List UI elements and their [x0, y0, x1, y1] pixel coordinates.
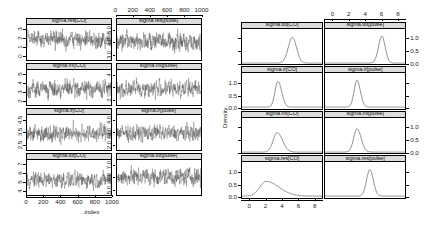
trace-y-tick — [23, 92, 26, 93]
density-y-tick — [238, 96, 241, 97]
trace-y-tick-label: 4 — [16, 190, 22, 193]
density-bottom-axis-tick-label: 8 — [308, 203, 322, 209]
trace-x-axis-label: .index — [83, 209, 100, 215]
density-y-tick — [238, 172, 241, 173]
density-y-tick-label: 0.5 — [410, 48, 423, 54]
density-bottom-axis-tick-label: 0 — [242, 203, 256, 209]
density-y-tick — [238, 51, 241, 52]
density-curve — [325, 170, 405, 196]
density-curve — [242, 132, 322, 152]
density-y-tick — [406, 38, 409, 39]
trace-panel-3 — [26, 69, 112, 106]
trace-y-tick — [23, 47, 26, 48]
density-bottom-axis-tick — [298, 198, 299, 201]
trace-y-tick — [113, 132, 116, 133]
density-y-tick — [238, 64, 241, 65]
trace-y-tick — [23, 132, 26, 133]
trace-y-tick — [113, 55, 116, 56]
density-panel-5 — [241, 117, 323, 155]
density-panel-7 — [241, 161, 323, 199]
trace-line — [27, 78, 111, 101]
trace-line — [117, 29, 201, 53]
trace-panel-6 — [116, 114, 202, 151]
density-y-tick — [406, 185, 409, 186]
density-panel-2 — [324, 28, 406, 66]
trace-bottom-axis-tick — [112, 195, 113, 198]
density-y-tick — [238, 127, 241, 128]
density-y-tick — [238, 108, 241, 109]
trace-y-tick-label: 5 — [16, 180, 22, 183]
density-y-tick-label: 1.0 — [410, 35, 423, 41]
density-top-axis-tick-label: 6 — [375, 11, 389, 17]
trace-y-tick-label: 5.0 — [106, 26, 112, 35]
density-y-tick — [238, 153, 241, 154]
density-y-tick-label: 0.0 — [410, 150, 423, 156]
trace-panel-8 — [116, 159, 202, 196]
density-y-tick — [406, 96, 409, 97]
trace-top-axis-tick-label: 800 — [175, 7, 193, 13]
trace-top-axis-tick-label: 600 — [158, 7, 176, 13]
trace-y-tick — [113, 75, 116, 76]
trace-y-tick — [113, 177, 116, 178]
density-y-tick — [406, 83, 409, 84]
density-y-tick — [406, 127, 409, 128]
trace-y-tick-label: 6.0 — [106, 173, 112, 182]
density-curve — [242, 37, 322, 63]
trace-top-axis-tick-label: 200 — [124, 7, 142, 13]
density-y-axis-label: Density — [222, 107, 228, 128]
density-bottom-axis-tick-label: 6 — [291, 203, 305, 209]
trace-line — [117, 165, 201, 188]
density-y-tick-label: 1.0 — [224, 80, 237, 86]
density-panel-8 — [324, 161, 406, 199]
trace-bottom-axis-tick — [43, 195, 44, 198]
trace-y-tick — [113, 100, 116, 101]
trace-bottom-axis-tick-label: 600 — [69, 199, 87, 205]
trace-panel-7 — [26, 159, 112, 196]
trace-y-tick-label: 6 — [16, 171, 22, 174]
trace-y-tick-label: 4 — [106, 73, 112, 76]
density-y-tick-label: 0.0 — [410, 61, 423, 67]
density-y-tick — [406, 51, 409, 52]
trace-y-tick — [23, 29, 26, 30]
trace-y-tick — [23, 191, 26, 192]
density-curve — [242, 182, 322, 197]
density-y-tick-label: 0.0 — [224, 194, 237, 200]
density-y-tick-label: 0.5 — [224, 182, 237, 188]
trace-top-axis-tick-label: 0 — [107, 7, 125, 13]
trace-line — [27, 120, 111, 145]
density-y-tick — [406, 153, 409, 154]
trace-y-tick — [23, 101, 26, 102]
trace-y-tick-label: 2 — [106, 98, 112, 101]
trace-top-axis-tick — [202, 15, 203, 18]
density-top-axis-tick-label: 2 — [342, 11, 356, 17]
density-y-tick-label: 1.0 — [224, 169, 237, 175]
density-panel-3 — [241, 72, 323, 110]
trace-y-tick-label: 5 — [16, 72, 22, 75]
trace-y-tick-label: 2.5 — [16, 140, 22, 149]
trace-y-tick — [23, 173, 26, 174]
density-bottom-axis-tick-label: 4 — [275, 203, 289, 209]
trace-bottom-axis-tick — [78, 195, 79, 198]
density-column-separator — [324, 19, 325, 198]
trace-bottom-axis-tick-label: 0 — [17, 199, 35, 205]
density-top-axis-tick-label: 0 — [325, 11, 339, 17]
trace-top-axis-line — [116, 15, 202, 16]
trace-y-tick — [113, 145, 116, 146]
trace-y-tick-label: 7.0 — [106, 161, 112, 170]
trace-y-tick-label: 3 — [16, 90, 22, 93]
trace-y-tick — [113, 42, 116, 43]
trace-top-axis-tick-label: 400 — [141, 7, 159, 13]
trace-y-tick — [23, 83, 26, 84]
density-bottom-axis-tick — [315, 198, 316, 201]
trace-y-tick — [23, 182, 26, 183]
density-y-tick — [238, 140, 241, 141]
trace-y-tick — [113, 165, 116, 166]
density-panel-6 — [324, 117, 406, 155]
density-y-tick — [406, 64, 409, 65]
density-y-tick — [238, 38, 241, 39]
trace-bottom-axis-tick — [95, 195, 96, 198]
trace-line — [117, 122, 201, 143]
density-bottom-axis-tick — [249, 198, 250, 201]
density-y-tick-label: 0.5 — [410, 137, 423, 143]
trace-bottom-axis-tick-label: 1000 — [103, 199, 121, 205]
